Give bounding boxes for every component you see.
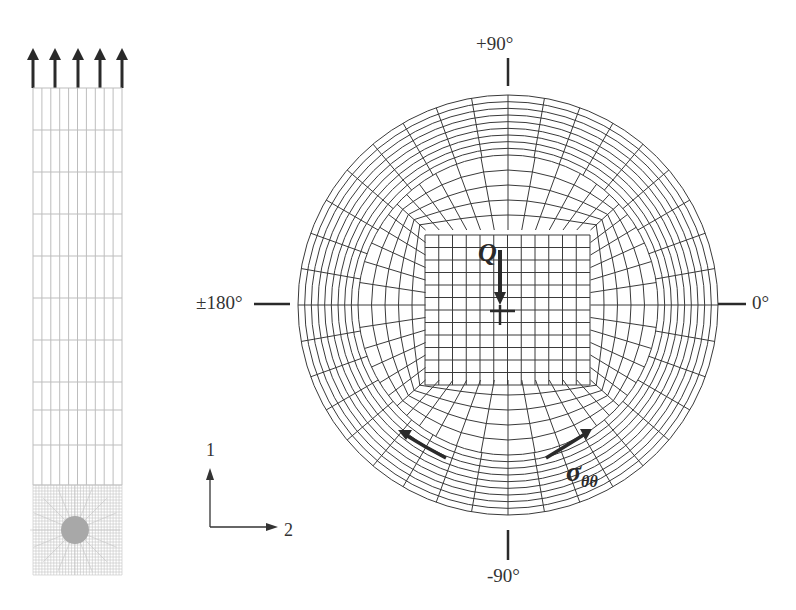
- stress-subscript: θθ: [581, 473, 598, 490]
- stress-symbol: σ: [566, 456, 581, 487]
- load-label-q: Q: [478, 238, 497, 268]
- stress-label: σθθ: [566, 456, 598, 491]
- coordinate-axes: [206, 468, 278, 531]
- inclusion-core: [61, 516, 89, 544]
- angle-label-left: ±180°: [196, 292, 243, 314]
- axis-2-label: 2: [284, 520, 293, 541]
- circular-mesh: [298, 95, 718, 515]
- angle-label-bottom: -90°: [487, 565, 520, 587]
- stress-arrows: [398, 429, 592, 458]
- load-arrows: [27, 48, 128, 88]
- angle-label-right: 0°: [752, 292, 769, 314]
- angle-label-top: +90°: [476, 33, 513, 55]
- left-strip-mesh: [0, 0, 796, 610]
- axis-1-label: 1: [206, 440, 215, 461]
